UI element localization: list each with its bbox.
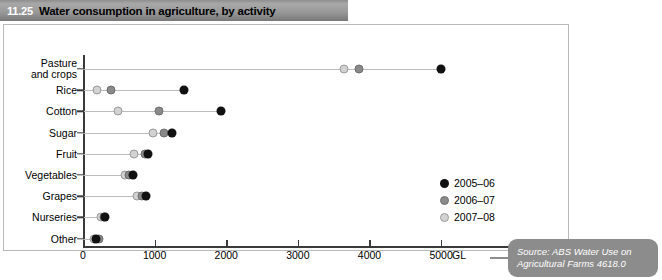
x-axis-tick [298,240,299,247]
category-label: Pastureand crops [31,58,77,80]
y-axis-tick [77,217,84,218]
data-point [340,65,349,74]
chart-legend: 2005–062006–072007–08 [440,177,495,223]
page-title: Water consumption in agriculture, by act… [39,5,276,17]
y-axis-tick [77,132,84,133]
x-axis-tick-label: 3000 [286,249,309,261]
x-axis-tick [369,240,370,247]
category-label: Cotton [46,106,77,117]
data-point [154,107,163,116]
category-label: Sugar [49,127,77,138]
y-axis-tick [77,89,84,90]
data-point [92,86,101,95]
x-axis-tick [155,240,156,247]
category-label: Vegetables [25,170,77,181]
data-point [217,107,226,116]
data-point [129,149,138,158]
plot-area: Pastureand cropsRiceCottonSugarFruitVege… [4,25,568,250]
data-point [179,86,188,95]
legend-item: 2007–08 [440,211,495,223]
source-note: Source: ABS Water Use on Agricultural Fa… [508,239,658,277]
legend-label: 2006–07 [454,194,495,206]
x-axis-tick-label: 1000 [143,249,166,261]
y-axis-tick [77,174,84,175]
x-axis-tick-label: 2000 [215,249,238,261]
data-point [142,192,151,201]
row-connector-line [83,154,148,155]
chart-number: 11.25 [7,5,33,17]
legend-label: 2007–08 [454,211,495,223]
x-axis-tick-label: 5000 [429,249,452,261]
y-axis-tick [77,111,84,112]
y-axis-tick [77,153,84,154]
legend-marker-icon [440,196,449,205]
x-axis-unit-label: GL [452,249,466,261]
data-point [149,128,158,137]
x-axis-line [83,246,533,248]
category-label: Nurseries [32,212,77,223]
x-axis-tick-label: 4000 [358,249,381,261]
data-point [167,128,176,137]
x-axis-tick [83,240,84,247]
x-axis-tick-label: 0 [80,249,86,261]
y-axis-tick [77,195,84,196]
data-point [144,149,153,158]
legend-item: 2005–06 [440,177,495,189]
data-point [91,234,100,243]
source-line-2: Agricultural Farms 4618.0 [517,258,658,270]
data-point [437,65,446,74]
legend-label: 2005–06 [454,177,495,189]
data-point [101,213,110,222]
category-label: Rice [56,85,77,96]
row-connector-line [83,69,441,70]
category-label: Other [51,233,77,244]
legend-item: 2006–07 [440,194,495,206]
category-label: Fruit [56,148,77,159]
x-axis-tick [226,240,227,247]
source-line-1: Source: ABS Water Use on [517,246,658,258]
data-point [106,86,115,95]
data-point [114,107,123,116]
category-label: Grapes [43,191,77,202]
row-connector-line [83,111,221,112]
chart-title-bar: 11.25 Water consumption in agriculture, … [0,0,348,21]
legend-marker-icon [440,213,449,222]
chart-frame: Pastureand cropsRiceCottonSugarFruitVege… [3,24,569,251]
y-axis-tick [77,68,84,69]
legend-marker-icon [440,179,449,188]
x-axis-tick [441,240,442,247]
data-point [355,65,364,74]
data-point [129,171,138,180]
